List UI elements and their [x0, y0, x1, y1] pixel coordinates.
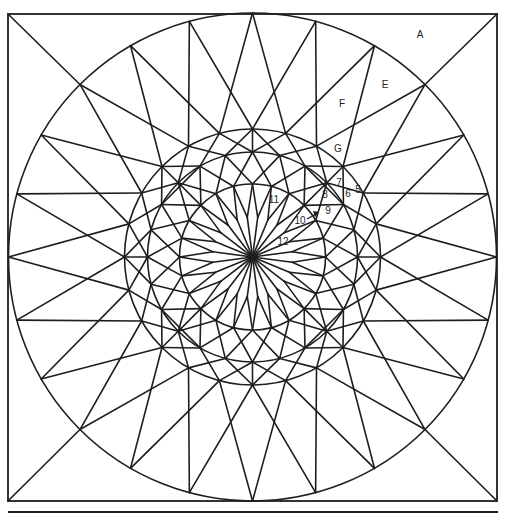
piece-label-A: A — [417, 29, 424, 40]
star-point-edge — [343, 46, 374, 167]
star-point-edge — [219, 362, 252, 381]
star-point-edge — [271, 328, 305, 348]
star-point-edge — [316, 368, 317, 493]
star-point-edge — [151, 284, 189, 293]
star-point-edge — [80, 321, 142, 430]
piece-label-8: 8 — [322, 189, 328, 200]
piece-label-7: 7 — [336, 177, 342, 188]
star-point-edge — [363, 320, 488, 321]
piece-label-E: E — [382, 79, 389, 90]
piece-label-5: 5 — [355, 184, 361, 195]
star-point-edge — [9, 257, 129, 290]
star-point-edge — [216, 156, 225, 194]
star-point-edge — [162, 276, 182, 310]
star-point-edge — [80, 84, 189, 146]
star-point-edge — [253, 13, 286, 133]
star-point-edge — [253, 381, 286, 501]
star-point-edge — [363, 193, 488, 194]
center-point — [250, 255, 255, 260]
piece-label-F: F — [339, 98, 345, 109]
star-point-edge — [162, 205, 182, 239]
pattern-lines — [8, 13, 497, 501]
star-point-edge — [41, 135, 162, 166]
star-point-edge — [219, 381, 252, 501]
star-point-edge — [219, 13, 252, 133]
star-point-edge — [216, 320, 225, 358]
star-point-edge — [343, 348, 464, 379]
star-point-edge — [316, 221, 354, 230]
star-point-edge — [253, 362, 286, 381]
star-point-edge — [80, 84, 142, 193]
star-point-edge — [363, 84, 425, 193]
star-point-edge — [189, 368, 190, 493]
star-point-edge — [304, 205, 343, 206]
corner-diagonal — [425, 14, 497, 84]
center-star-edge — [292, 252, 325, 257]
star-point-edge — [17, 193, 142, 194]
center-star-edge — [247, 297, 252, 330]
star-point-edge — [343, 135, 464, 166]
star-point-edge — [304, 166, 305, 205]
star-point-edge — [131, 46, 162, 167]
center-star-edge — [180, 252, 213, 257]
star-point-edge — [317, 84, 426, 146]
star-point-edge — [200, 166, 234, 186]
star-point-edge — [343, 348, 374, 469]
star-point-edge — [162, 205, 201, 206]
piece-label-G: G — [334, 143, 342, 154]
center-star-edge — [253, 184, 258, 217]
star-point-edge — [129, 224, 148, 257]
star-point-edge — [323, 276, 343, 310]
star-point-edge — [376, 257, 496, 290]
piece-label-10: 10 — [294, 215, 306, 226]
center-star-edge — [180, 257, 213, 262]
quilt-pattern-diagram: A E F G 7 8 6 5 9 10 11 12 — [0, 0, 508, 520]
star-point-edge — [200, 309, 201, 348]
star-point-edge — [304, 309, 343, 310]
star-point-edge — [317, 368, 426, 430]
star-point-edge — [316, 21, 317, 146]
star-point-edge — [41, 348, 162, 379]
piece-label-11: 11 — [269, 194, 280, 205]
center-star-edge — [247, 184, 252, 217]
star-point-edge — [17, 320, 142, 321]
piece-label-12: 12 — [277, 236, 289, 247]
star-point-edge — [271, 166, 305, 186]
piece-label-9: 9 — [325, 205, 331, 216]
star-point-edge — [151, 221, 189, 230]
center-star-edge — [253, 297, 258, 330]
star-point-edge — [9, 224, 129, 257]
star-point-edge — [280, 320, 289, 358]
star-point-edge — [200, 328, 234, 348]
star-point-edge — [129, 257, 148, 290]
corner-diagonal — [8, 14, 80, 84]
star-point-edge — [363, 321, 425, 430]
star-point-edge — [253, 133, 286, 152]
star-point-edge — [316, 284, 354, 293]
corner-diagonal — [425, 430, 497, 501]
star-point-edge — [131, 348, 162, 469]
star-point-edge — [162, 309, 201, 310]
star-point-edge — [358, 257, 377, 290]
star-point-edge — [200, 166, 201, 205]
corner-diagonal — [8, 430, 80, 501]
star-point-edge — [376, 224, 496, 257]
star-point-edge — [189, 21, 190, 146]
star-point-edge — [80, 368, 189, 430]
star-point-edge — [219, 133, 252, 152]
star-point-edge — [358, 224, 377, 257]
star-point-edge — [280, 156, 289, 194]
star-point-edge — [304, 309, 305, 348]
piece-label-6: 6 — [345, 188, 351, 199]
center-star-edge — [292, 257, 325, 262]
